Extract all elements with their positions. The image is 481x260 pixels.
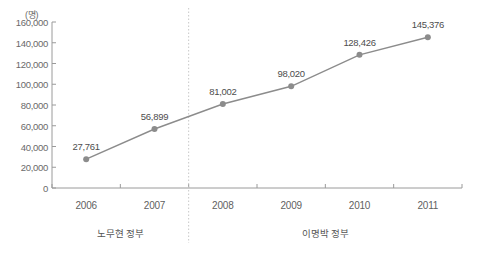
data-point-marker[interactable] bbox=[220, 101, 226, 107]
x-axis-tick-label: 2007 bbox=[144, 200, 165, 211]
x-axis-tick-label: 2009 bbox=[280, 200, 301, 211]
data-point-marker[interactable] bbox=[83, 156, 89, 162]
period-lee: 이명박 정부 bbox=[302, 226, 348, 240]
x-axis-tick-label: 2010 bbox=[349, 200, 370, 211]
data-point-value-label: 56,899 bbox=[141, 111, 168, 122]
data-point-value-label: 81,002 bbox=[209, 86, 236, 97]
x-axis-tick-label: 2006 bbox=[75, 200, 96, 211]
line-chart: (명) 020,00040,00060,00080,000100,000120,… bbox=[0, 0, 481, 260]
y-axis-ticks bbox=[52, 22, 56, 188]
chart-plot-area bbox=[0, 0, 481, 260]
period-roh: 노무현 정부 bbox=[97, 226, 143, 240]
series-line bbox=[86, 37, 428, 159]
data-point-marker[interactable] bbox=[425, 34, 431, 40]
axis-lines bbox=[52, 22, 462, 188]
data-point-value-label: 128,426 bbox=[343, 37, 375, 48]
data-point-value-label: 145,376 bbox=[412, 19, 444, 30]
series-markers bbox=[83, 34, 431, 162]
data-point-marker[interactable] bbox=[288, 83, 294, 89]
x-axis-tick-label: 2011 bbox=[417, 200, 438, 211]
data-point-value-label: 98,020 bbox=[278, 68, 305, 79]
x-axis-ticks bbox=[52, 184, 462, 188]
data-point-marker[interactable] bbox=[357, 52, 363, 58]
data-point-value-label: 27,761 bbox=[73, 141, 100, 152]
x-axis-tick-label: 2008 bbox=[212, 200, 233, 211]
data-point-marker[interactable] bbox=[152, 126, 158, 132]
